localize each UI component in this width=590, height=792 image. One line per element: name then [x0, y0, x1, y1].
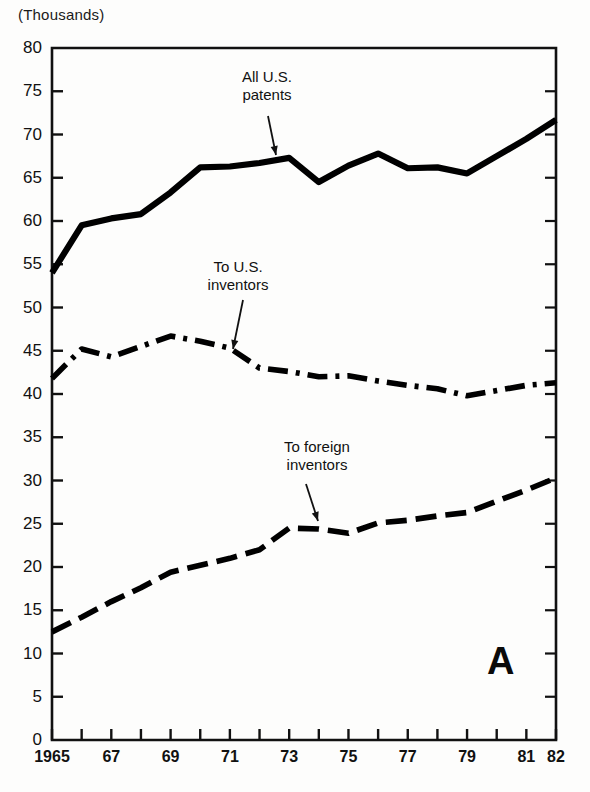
series-line-to-u-s-inventors: [52, 336, 556, 396]
panel-letter-label: A: [487, 640, 514, 683]
patent-trends-chart-figure: (Thousands) 0510152025303540455055606570…: [0, 0, 590, 792]
x-axis-tick-label: 69: [162, 748, 180, 766]
y-axis-tick-label: 70: [0, 125, 42, 145]
data-series-lines: [52, 120, 556, 632]
x-axis-tick-label: 82: [547, 748, 565, 766]
series-line-to-foreign-inventors: [52, 478, 556, 632]
x-axis-tick-label: 71: [221, 748, 239, 766]
y-axis-tick-label: 60: [0, 211, 42, 231]
y-axis-tick-label: 45: [0, 341, 42, 361]
y-axis-tick-label: 0: [0, 730, 42, 750]
y-axis-tick-label: 25: [0, 514, 42, 534]
x-axis-tick-label: 75: [340, 748, 358, 766]
series-line-all-u-s-patents: [52, 120, 556, 273]
annotation-to-us-inventors: To U.S. inventors: [178, 258, 298, 295]
arrow-all-us-patents-head: [271, 145, 278, 155]
x-axis-tick-label: 77: [399, 748, 417, 766]
y-axis-tick-label: 80: [0, 38, 42, 58]
arrow-to-foreign-inventors-head: [312, 511, 319, 521]
y-axis-tick-label: 15: [0, 600, 42, 620]
x-axis-tick-label: 67: [102, 748, 120, 766]
annotation-all-us-patents: All U.S. patents: [207, 68, 327, 105]
y-axis-tick-label: 65: [0, 168, 42, 188]
y-axis-tick-label: 55: [0, 254, 42, 274]
x-axis-tick-label: 79: [458, 748, 476, 766]
x-axis-ticks: [52, 729, 556, 740]
x-axis-tick-label: 81: [517, 748, 535, 766]
arrow-to-us-inventors-head: [231, 339, 238, 349]
y-axis-tick-label: 20: [0, 557, 42, 577]
y-axis-tick-label: 75: [0, 81, 42, 101]
y-axis-tick-label: 5: [0, 687, 42, 707]
x-axis-tick-label: 73: [280, 748, 298, 766]
y-axis-tick-label: 10: [0, 644, 42, 664]
annotation-to-foreign-inventors: To foreign inventors: [252, 438, 382, 475]
y-axis-tick-label: 40: [0, 384, 42, 404]
y-axis-tick-label: 50: [0, 298, 42, 318]
y-axis-tick-label: 35: [0, 427, 42, 447]
x-axis-tick-label: 1965: [34, 748, 70, 766]
y-axis-tick-label: 30: [0, 471, 42, 491]
